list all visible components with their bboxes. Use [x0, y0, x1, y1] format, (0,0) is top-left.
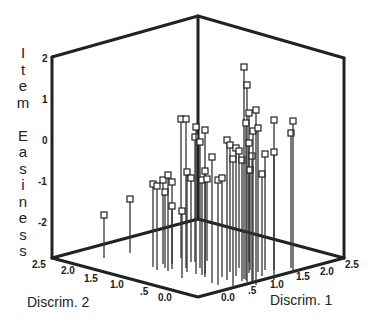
x-tick-label: 1.5: [296, 271, 310, 282]
data-point-marker: [259, 171, 265, 177]
plot-frame: [52, 16, 344, 297]
data-point-marker: [271, 117, 277, 123]
data-point-marker: [188, 175, 194, 181]
data-point-marker: [236, 148, 242, 154]
z-axis-title-letter: m: [17, 94, 30, 111]
x-tick-label: .5: [248, 285, 257, 296]
z-axis-title-letter: I: [21, 44, 25, 61]
z-axis-title: ItemEasiness: [17, 44, 30, 259]
data-point-marker: [202, 168, 208, 174]
data-point-marker: [243, 120, 249, 126]
data-point-marker: [246, 110, 252, 116]
data-point-marker: [290, 118, 296, 124]
data-point-marker: [184, 169, 190, 175]
y-tick-label: 0.0: [158, 292, 172, 303]
data-point-marker: [271, 149, 277, 155]
data-point-marker: [165, 172, 171, 178]
data-point-marker: [169, 203, 175, 209]
x-tick-label: 1.0: [270, 279, 284, 290]
data-point-marker: [162, 189, 168, 195]
z-axis-title-letter: i: [21, 176, 24, 193]
z-axis-title-letter: n: [19, 193, 27, 210]
data-point-marker: [202, 127, 208, 133]
z-axis-title-letter: a: [19, 143, 28, 160]
z-ticks: 2 1 0 -1 -2: [38, 53, 48, 228]
data-point-marker: [154, 183, 160, 189]
data-point-marker: [262, 151, 268, 157]
z-axis-title-letter: E: [18, 127, 28, 144]
data-point-marker: [230, 156, 236, 162]
3d-scatter-chart: ItemEasiness 2 1 0 -1 -2 2.5 2.0 1.5 1.0…: [0, 0, 376, 324]
z-tick-label: 1: [42, 94, 48, 105]
data-point-marker: [204, 176, 210, 182]
discrim2-axis-title: Discrim. 2: [27, 294, 89, 310]
data-point-marker: [193, 124, 199, 130]
x-tick-label: 0.0: [221, 292, 235, 303]
data-point-marker: [179, 208, 185, 214]
data-point-marker: [244, 82, 250, 88]
data-point-marker: [241, 64, 247, 70]
y-tick-label: .5: [140, 286, 149, 297]
y-tick-label: 2.5: [32, 259, 46, 270]
z-tick-label: -1: [38, 176, 47, 187]
data-point-marker: [249, 153, 255, 159]
z-tick-label: 0: [42, 135, 48, 146]
z-axis-title-letter: t: [21, 61, 26, 78]
y-tick-label: 1.5: [84, 273, 98, 284]
z-axis-title-letter: e: [19, 77, 27, 94]
data-point-marker: [227, 142, 233, 148]
z-tick-label: -2: [38, 217, 47, 228]
x-tick-label: 2.5: [345, 259, 359, 270]
data-point-marker: [197, 139, 203, 145]
x-tick-label: 2.0: [320, 266, 334, 277]
data-point-marker: [253, 107, 259, 113]
data-point-marker: [127, 196, 133, 202]
data-point-marker: [209, 154, 215, 160]
y-tick-label: 2.0: [61, 265, 75, 276]
z-tick-label: 2: [42, 53, 48, 64]
z-axis-title-letter: s: [19, 226, 27, 243]
data-point-marker: [255, 125, 261, 131]
y-tick-label: 1.0: [110, 279, 124, 290]
data-point-marker: [183, 116, 189, 122]
z-axis-title-letter: e: [19, 209, 27, 226]
data-point-marker: [169, 179, 175, 185]
data-point-marker: [246, 140, 252, 146]
z-axis-title-letter: s: [19, 242, 27, 259]
discrim1-axis-title: Discrim. 1: [270, 292, 332, 308]
z-axis-title-letter: s: [19, 160, 27, 177]
data-point-marker: [219, 175, 225, 181]
back-floor-edges: [52, 219, 344, 258]
data-point-marker: [101, 212, 107, 218]
